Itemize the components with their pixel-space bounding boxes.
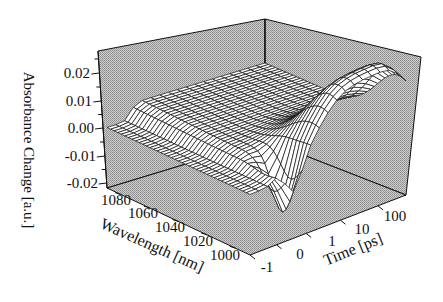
z-tick: 0.00 [68, 120, 94, 136]
z-tick: 0.02 [64, 65, 90, 81]
wavelength-tick: 1060 [128, 205, 158, 221]
z-tick-labels: 0.02 0.01 0.00 -0.01 -0.02 [64, 65, 98, 191]
wavelength-tick: 1020 [183, 233, 213, 249]
time-tick: 0 [296, 246, 304, 262]
surface-plot: 0.02 0.01 0.00 -0.01 -0.02 Absorbance Ch… [0, 0, 443, 302]
wavelength-tick: 1080 [101, 192, 131, 208]
time-tick: -1 [261, 259, 274, 275]
z-tick: 0.01 [66, 93, 92, 109]
z-tick: -0.01 [65, 148, 96, 164]
time-tick: 100 [384, 208, 407, 224]
z-axis-label: Absorbance Change [a.u.] [21, 72, 37, 229]
z-tick: -0.02 [67, 175, 98, 191]
wavelength-tick: 1040 [155, 219, 185, 235]
wavelength-tick: 1000 [210, 247, 240, 263]
